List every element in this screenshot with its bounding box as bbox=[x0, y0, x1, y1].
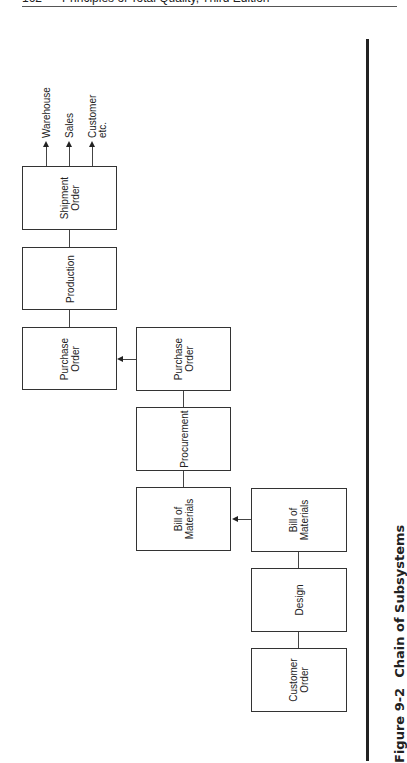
connector-production-purchase bbox=[69, 310, 70, 327]
box-label: Bill of Materials bbox=[173, 499, 195, 540]
box-purchase-order-left: Purchase Order bbox=[22, 327, 117, 390]
figure-caption: Figure 9-2Chain of Subsystems bbox=[392, 525, 407, 763]
box-label: Purchase Order bbox=[173, 338, 195, 380]
figure-side-rule bbox=[366, 39, 369, 761]
page-number: 162 bbox=[22, 0, 42, 5]
sales-arrow-line bbox=[69, 146, 70, 166]
output-label-sales: Sales bbox=[64, 113, 75, 138]
connector-shipment-production bbox=[69, 230, 70, 247]
customer-arrow-head-icon bbox=[89, 141, 95, 147]
box-shipment-order: Shipment Order bbox=[22, 166, 117, 230]
box-procurement: Procurement bbox=[136, 407, 231, 471]
box-production: Production bbox=[22, 247, 117, 310]
figure-title: Chain of Subsystems bbox=[392, 525, 407, 678]
warehouse-arrow-line bbox=[46, 146, 47, 166]
output-label-etc: etc. bbox=[97, 122, 108, 138]
box-label: Shipment Order bbox=[59, 177, 81, 219]
box-bill-of-materials-mid: Bill of Materials bbox=[136, 487, 231, 551]
box-design: Design bbox=[251, 568, 347, 632]
running-header: 162 Principles of Total Quality, Third E… bbox=[22, 0, 269, 5]
sales-arrow-head-icon bbox=[66, 141, 72, 147]
output-label-warehouse: Warehouse bbox=[41, 87, 52, 138]
book-title: Principles of Total Quality, Third Editi… bbox=[62, 0, 269, 5]
customer-arrow-line bbox=[92, 146, 93, 166]
box-purchase-order-mid: Purchase Order bbox=[136, 327, 231, 391]
connector-design-customer bbox=[298, 632, 299, 648]
connector-bom-right-to-mid bbox=[237, 519, 251, 520]
box-bill-of-materials-right: Bill of Materials bbox=[251, 488, 347, 552]
box-label: Procurement bbox=[178, 410, 189, 467]
box-label: Production bbox=[64, 255, 75, 303]
connector-purchase-procurement bbox=[183, 391, 184, 407]
connector-procurement-bom bbox=[183, 471, 184, 487]
arrow-head-left-icon bbox=[232, 516, 238, 522]
box-label: Bill of Materials bbox=[288, 500, 310, 541]
box-label: Purchase Order bbox=[59, 337, 81, 379]
box-customer-order: Customer Order bbox=[251, 648, 347, 712]
box-label: Customer Order bbox=[288, 658, 310, 701]
arrow-head-left-icon bbox=[117, 356, 123, 362]
figure-number: Figure 9-2 bbox=[392, 688, 407, 763]
header-rule bbox=[22, 6, 397, 7]
connector-bom-design bbox=[298, 552, 299, 568]
box-label: Design bbox=[294, 584, 305, 615]
warehouse-arrow-head-icon bbox=[43, 141, 49, 147]
connector-purchase-mid-to-left bbox=[122, 359, 136, 360]
